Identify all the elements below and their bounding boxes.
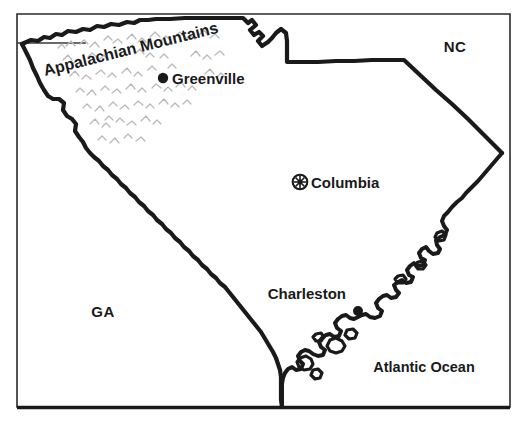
greenville-city-dot-icon [158, 73, 168, 83]
city-charleston[interactable]: Charleston [268, 285, 363, 316]
city-columbia[interactable]: Columbia [293, 174, 380, 191]
columbia-label: Columbia [311, 174, 380, 191]
city-greenville[interactable]: Greenville [158, 70, 245, 87]
state-border-west-savannah-river [22, 44, 282, 407]
charleston-city-dot-icon [353, 306, 363, 316]
map-frame-border [17, 14, 510, 407]
charleston-label: Charleston [268, 285, 346, 302]
greenville-label: Greenville [172, 70, 245, 87]
columbia-capital-star-icon [293, 175, 308, 190]
map-canvas: Appalachian Mountains Greenville Columbi… [0, 0, 523, 427]
atlantic-ocean-label: Atlantic Ocean [373, 359, 475, 375]
state-border-outline [22, 18, 502, 153]
north-carolina-label: NC [444, 38, 467, 55]
map-frame [17, 14, 510, 408]
south-carolina-map: Appalachian Mountains Greenville Columbi… [0, 0, 523, 427]
georgia-label: GA [91, 303, 115, 320]
